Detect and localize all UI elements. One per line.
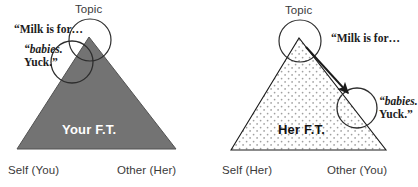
right-babies-quote-line2: Yuck.” xyxy=(379,108,413,122)
left-babies-quote-line2: Yuck.” xyxy=(24,56,58,70)
left-base-label-other: Other (Her) xyxy=(117,164,176,176)
left-babies-quote-line1: “babies. xyxy=(24,43,63,57)
left-base-label-self: Self (You) xyxy=(8,164,59,176)
left-milk-quote: “Milk is for… xyxy=(14,23,83,37)
left-apex-label-topic: Topic xyxy=(75,3,102,15)
right-babies-italic: “babies. xyxy=(379,95,418,107)
right-base-label-other: Other (You) xyxy=(327,164,387,176)
right-babies-quote-line1: “babies. xyxy=(379,95,418,109)
right-milk-quote: “Milk is for… xyxy=(331,32,400,46)
right-triangle-label: Her F.T. xyxy=(278,122,325,137)
right-base-label-self: Self (Her) xyxy=(222,164,272,176)
left-triangle-label: Your F.T. xyxy=(62,122,116,137)
left-babies-italic: “babies. xyxy=(24,43,63,55)
right-apex-label-topic: Topic xyxy=(285,4,312,16)
